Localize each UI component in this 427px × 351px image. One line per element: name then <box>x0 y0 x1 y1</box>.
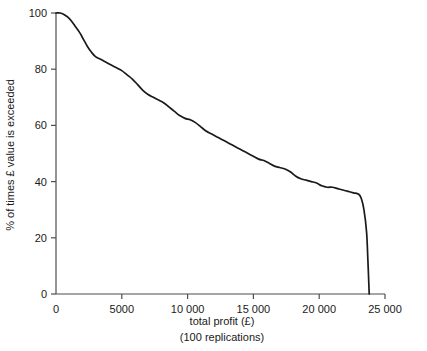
chart-figure: 020406080100 0500010 00015 00020 00025 0… <box>0 0 427 351</box>
x-tick-label: 10 000 <box>171 303 205 315</box>
y-tick-label: 0 <box>41 288 47 300</box>
y-tick-label: 60 <box>35 119 47 131</box>
y-tick-label: 20 <box>35 232 47 244</box>
y-tick-label: 100 <box>29 7 47 19</box>
x-axis-label: total profit (£) <box>190 315 255 327</box>
axes-group <box>56 13 385 294</box>
y-axis-label: % of times £ value is exceeded <box>4 79 16 231</box>
x-axis-ticks <box>122 294 385 299</box>
y-tick-label: 40 <box>35 176 47 188</box>
x-tick-label: 5000 <box>110 303 134 315</box>
x-axis-tick-labels: 0500010 00015 00020 00025 000 <box>53 303 402 315</box>
x-tick-label: 15 000 <box>237 303 271 315</box>
exceedance-curve <box>56 13 369 294</box>
exceedance-chart: 020406080100 0500010 00015 00020 00025 0… <box>0 0 427 351</box>
y-axis-ticks <box>51 13 56 294</box>
x-tick-label: 20 000 <box>302 303 336 315</box>
y-axis-tick-labels: 020406080100 <box>29 7 47 300</box>
x-axis-sublabel: (100 replications) <box>180 331 264 343</box>
y-tick-label: 80 <box>35 63 47 75</box>
x-tick-label: 0 <box>53 303 59 315</box>
x-tick-label: 25 000 <box>368 303 402 315</box>
